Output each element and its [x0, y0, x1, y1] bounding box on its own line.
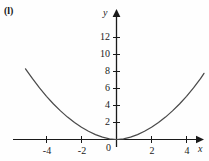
- y-axis-label: y: [103, 8, 107, 18]
- y-tick-label-6: 6: [104, 83, 110, 93]
- y-tick-label-8: 8: [104, 66, 110, 76]
- x-axis-label: x: [198, 144, 202, 154]
- x-tick-label-2: 2: [146, 146, 158, 156]
- figure-panel: (l) y x 12 10 8 6 4 2 -4 -2 2 4 0: [0, 0, 209, 161]
- panel-label: (l): [4, 6, 13, 16]
- x-tick-label-neg2: -2: [74, 146, 90, 156]
- y-tick-label-12: 12: [98, 32, 110, 42]
- x-tick-label-neg4: -4: [39, 146, 55, 156]
- x-tick-label-4: 4: [181, 146, 193, 156]
- y-tick-label-2: 2: [104, 117, 110, 127]
- y-tick-label-10: 10: [98, 49, 110, 59]
- y-tick-label-4: 4: [104, 100, 110, 110]
- y-axis-arrow-icon: [113, 9, 121, 17]
- origin-label: 0: [106, 143, 111, 153]
- graph-canvas: [0, 0, 209, 161]
- parabola-curve: [26, 69, 205, 140]
